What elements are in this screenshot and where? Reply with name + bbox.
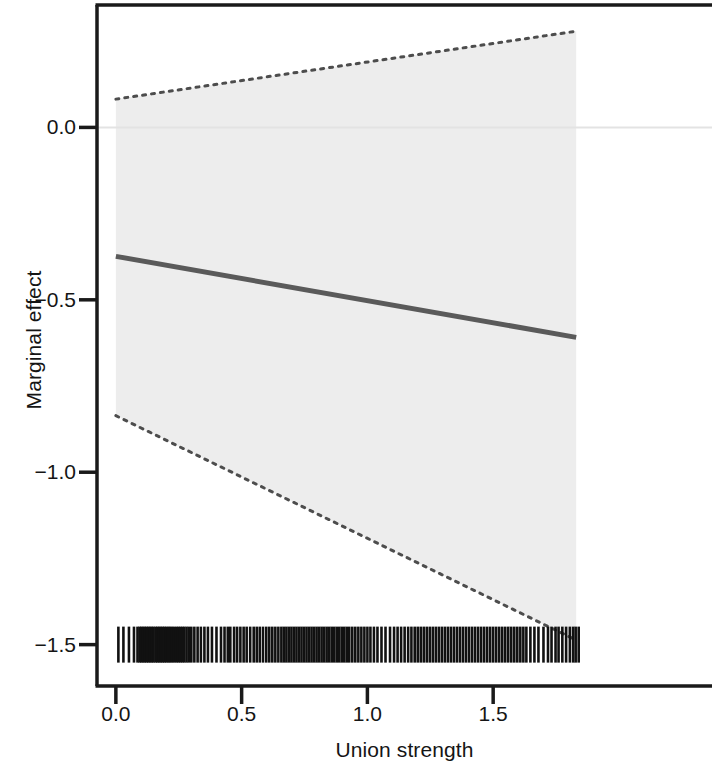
y-tick-label: 0.0 (2, 115, 76, 139)
plot-canvas (0, 0, 712, 766)
rug-plot (118, 627, 578, 663)
x-tick-label: 0.0 (76, 702, 156, 726)
x-axis-title: Union strength (97, 738, 712, 762)
y-tick-label: −1.0 (2, 460, 76, 484)
marginal-effects-chart: 0.0−0.5−1.0−1.5 0.00.51.01.5 Marginal ef… (0, 0, 712, 766)
y-axis-title: Marginal effect (22, 220, 46, 460)
x-tick-label: 1.5 (453, 702, 533, 726)
y-axis-tick-marks (79, 127, 97, 644)
y-tick-label: −1.5 (2, 633, 76, 657)
x-tick-label: 0.5 (202, 702, 282, 726)
x-axis-tick-labels: 0.00.51.01.5 (0, 702, 712, 736)
confidence-band (116, 31, 576, 640)
x-tick-label: 1.0 (327, 702, 407, 726)
